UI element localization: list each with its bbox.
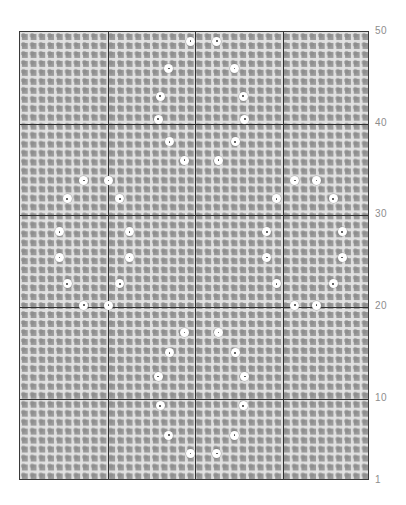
data-point[interactable]	[239, 92, 248, 101]
data-point[interactable]	[186, 37, 195, 46]
data-point[interactable]	[156, 92, 165, 101]
data-point[interactable]	[230, 64, 239, 73]
data-point[interactable]	[156, 401, 165, 410]
data-point[interactable]	[239, 401, 248, 410]
data-point[interactable]	[312, 176, 321, 185]
data-point[interactable]	[329, 194, 338, 203]
data-point[interactable]	[154, 372, 163, 381]
y-tick-label: 20	[375, 301, 387, 311]
data-point[interactable]	[230, 431, 239, 440]
y-tick-label: 50	[375, 26, 387, 36]
data-point[interactable]	[240, 115, 249, 124]
data-point[interactable]	[312, 301, 321, 310]
chart-canvas: 50403020101	[0, 0, 406, 505]
data-point[interactable]	[104, 301, 113, 310]
data-point[interactable]	[154, 115, 163, 124]
y-tick-label: 10	[375, 393, 387, 403]
data-point[interactable]	[214, 156, 223, 165]
data-point[interactable]	[338, 227, 347, 236]
data-point[interactable]	[231, 348, 240, 357]
data-point[interactable]	[212, 37, 221, 46]
data-point[interactable]	[79, 301, 88, 310]
y-tick-label: 40	[375, 118, 387, 128]
y-tick-label: 30	[375, 209, 387, 219]
major-gridline-horizontal	[20, 124, 368, 125]
major-gridline-vertical	[108, 32, 109, 479]
data-point[interactable]	[180, 156, 189, 165]
data-point[interactable]	[290, 301, 299, 310]
data-point[interactable]	[125, 253, 134, 262]
major-gridline-horizontal	[20, 399, 368, 400]
major-gridline-vertical	[195, 32, 196, 479]
grid-cell-shading	[20, 32, 368, 479]
data-point[interactable]	[180, 328, 189, 337]
scatter-plot-area[interactable]	[19, 31, 369, 480]
y-tick-label: 1	[375, 475, 381, 485]
data-point[interactable]	[164, 431, 173, 440]
major-gridline-horizontal	[20, 215, 368, 216]
major-gridline-vertical	[283, 32, 284, 479]
data-point[interactable]	[338, 253, 347, 262]
data-point[interactable]	[63, 194, 72, 203]
data-point[interactable]	[104, 176, 113, 185]
data-point[interactable]	[55, 253, 64, 262]
